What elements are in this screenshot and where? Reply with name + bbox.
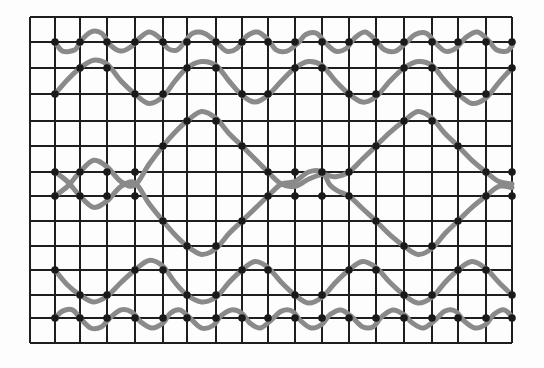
sample-dot xyxy=(103,192,111,200)
sample-dot xyxy=(264,168,272,176)
sample-dot xyxy=(345,266,353,274)
sample-dot xyxy=(318,192,326,200)
sample-dot xyxy=(291,38,299,46)
sample-dot xyxy=(428,117,436,125)
sample-dot xyxy=(212,38,220,46)
sample-dot xyxy=(345,90,353,98)
sample-dot xyxy=(131,90,139,98)
sample-dot xyxy=(76,192,84,200)
sample-dot xyxy=(345,314,353,322)
sample-dot xyxy=(372,217,380,225)
wave-curve-bottom-small-wave xyxy=(55,309,512,328)
sample-dot xyxy=(372,38,380,46)
sample-dot xyxy=(183,64,191,72)
sample-dot xyxy=(428,291,436,299)
sample-dot xyxy=(454,266,462,274)
sample-dot xyxy=(76,38,84,46)
sample-dot xyxy=(76,168,84,176)
wave-curve-upper-big-wave xyxy=(55,60,512,104)
sample-dot xyxy=(212,64,220,72)
sample-dot xyxy=(51,38,59,46)
sample-dot xyxy=(318,314,326,322)
sample-dot xyxy=(51,266,59,274)
sample-dot xyxy=(291,64,299,72)
sample-dot xyxy=(131,314,139,322)
sample-dot xyxy=(400,291,408,299)
sample-dot xyxy=(482,266,490,274)
diagram-canvas xyxy=(0,0,544,368)
sample-dot xyxy=(159,314,167,322)
sample-dot xyxy=(482,38,490,46)
sample-dot xyxy=(238,38,246,46)
sample-dot xyxy=(131,38,139,46)
sample-dot xyxy=(400,64,408,72)
sample-dot xyxy=(428,64,436,72)
sample-dot xyxy=(212,291,220,299)
sample-dot xyxy=(482,90,490,98)
sample-dot xyxy=(508,291,516,299)
sample-dot xyxy=(291,192,299,200)
sample-dot xyxy=(159,38,167,46)
wave-grid-diagram xyxy=(0,0,544,368)
sample-dot xyxy=(159,266,167,274)
sample-dot xyxy=(264,90,272,98)
sample-dot xyxy=(212,242,220,250)
sample-dot xyxy=(508,314,516,322)
sample-dot xyxy=(51,192,59,200)
sample-dot xyxy=(345,192,353,200)
wave-curve-middle-falling-wave xyxy=(55,171,512,255)
sample-dot xyxy=(103,168,111,176)
sample-dot xyxy=(508,64,516,72)
sample-dot xyxy=(400,38,408,46)
sample-dot xyxy=(291,291,299,299)
sample-dot xyxy=(345,38,353,46)
sample-dot xyxy=(51,314,59,322)
sample-dot xyxy=(508,192,516,200)
sample-dot xyxy=(318,64,326,72)
sample-dot xyxy=(103,291,111,299)
sample-dot xyxy=(454,90,462,98)
sample-dot xyxy=(508,168,516,176)
wave-curves xyxy=(55,31,512,329)
sample-dot xyxy=(400,117,408,125)
sample-dot xyxy=(264,314,272,322)
sample-dot xyxy=(183,291,191,299)
sample-dot xyxy=(372,90,380,98)
sample-dot xyxy=(212,314,220,322)
sample-dot xyxy=(400,314,408,322)
sample-dot xyxy=(212,117,220,125)
sample-dot xyxy=(372,266,380,274)
sample-dot xyxy=(183,242,191,250)
sample-dot xyxy=(318,38,326,46)
sample-dot xyxy=(345,168,353,176)
sample-dot xyxy=(238,266,246,274)
sample-dot xyxy=(264,38,272,46)
wave-curve-lower-big-wave xyxy=(55,260,512,303)
sample-dot xyxy=(103,64,111,72)
sample-dot xyxy=(428,242,436,250)
sample-dot xyxy=(159,90,167,98)
sample-dot xyxy=(372,142,380,150)
sample-dot xyxy=(159,142,167,150)
sample-dot xyxy=(291,314,299,322)
sample-dot xyxy=(131,266,139,274)
sample-dot xyxy=(131,192,139,200)
sample-dot xyxy=(76,291,84,299)
sample-dot xyxy=(103,314,111,322)
sample-dot xyxy=(183,38,191,46)
sample-dot xyxy=(482,314,490,322)
sample-dot xyxy=(482,192,490,200)
sample-dot xyxy=(482,168,490,176)
sample-dot xyxy=(400,242,408,250)
sample-dot xyxy=(183,117,191,125)
sample-dot xyxy=(508,38,516,46)
sample-dot xyxy=(454,38,462,46)
sample-dot xyxy=(318,291,326,299)
sample-dot xyxy=(372,314,380,322)
sample-dot xyxy=(428,38,436,46)
sample-dot xyxy=(318,168,326,176)
sample-dot xyxy=(454,142,462,150)
sample-dot xyxy=(428,314,436,322)
sample-dot xyxy=(238,314,246,322)
sample-dot xyxy=(238,142,246,150)
